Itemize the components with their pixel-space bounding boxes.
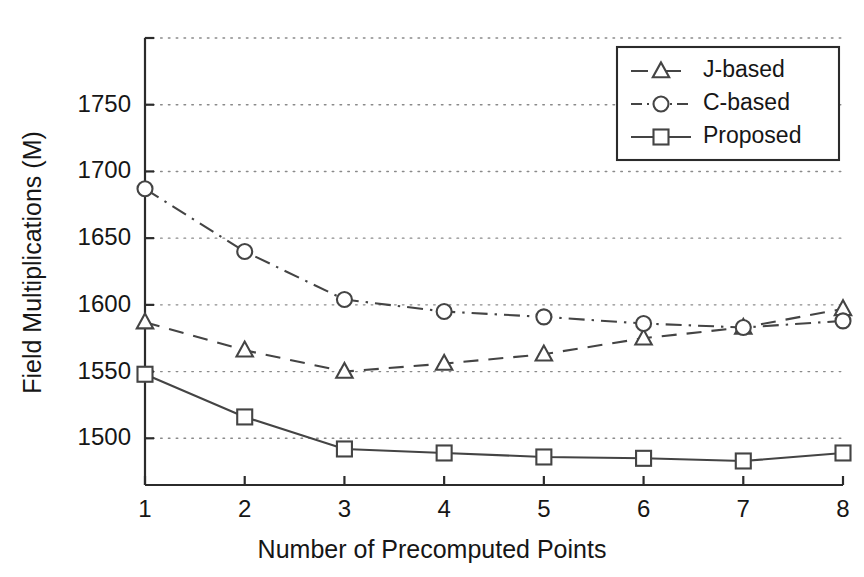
y-axis-tick-label: 1550: [41, 357, 131, 385]
y-axis-tick-label: 1650: [41, 223, 131, 251]
marker-circle: [736, 320, 751, 335]
y-axis-tick-label: 1700: [41, 156, 131, 184]
marker-square: [138, 367, 153, 382]
marker-circle: [337, 292, 352, 307]
legend-item-label: Proposed: [703, 122, 801, 149]
series-proposed: [138, 367, 851, 469]
marker-circle: [437, 304, 452, 319]
x-axis-tick-label: 1: [125, 495, 165, 523]
x-axis-tick-label: 4: [424, 495, 464, 523]
series-c-based: [138, 181, 851, 335]
line-chart-canvas: [0, 0, 864, 577]
marker-square: [736, 453, 751, 468]
marker-square: [636, 451, 651, 466]
x-axis-tick-label: 2: [225, 495, 265, 523]
x-axis-tick-label: 6: [624, 495, 664, 523]
x-axis-tick-label: 5: [524, 495, 564, 523]
marker-triangle: [237, 342, 253, 357]
y-axis-label-container: Field Multiplications (M): [18, 0, 47, 533]
marker-circle: [536, 309, 551, 324]
marker-triangle: [137, 314, 153, 329]
y-axis-tick-label: 1750: [41, 90, 131, 118]
chart-figure: Field Multiplications (M) Number of Prec…: [0, 0, 864, 577]
legend-marker-circle: [654, 97, 669, 112]
marker-square: [536, 449, 551, 464]
x-axis-tick-label: 7: [723, 495, 763, 523]
legend-marker-square: [654, 130, 669, 145]
y-axis-tick-label: 1500: [41, 423, 131, 451]
marker-square: [337, 441, 352, 456]
x-axis-label: Number of Precomputed Points: [0, 535, 864, 564]
x-axis-tick-label: 8: [823, 495, 863, 523]
x-axis-tick-label: 3: [324, 495, 364, 523]
y-axis-tick-label: 1600: [41, 290, 131, 318]
marker-circle: [636, 316, 651, 331]
series-j-based: [137, 300, 851, 378]
legend-item-label: J-based: [703, 56, 785, 83]
series-line: [145, 309, 843, 372]
legend-item-label: C-based: [703, 89, 790, 116]
marker-circle: [836, 313, 851, 328]
marker-circle: [237, 244, 252, 259]
marker-square: [836, 445, 851, 460]
marker-square: [237, 409, 252, 424]
marker-square: [437, 445, 452, 460]
marker-circle: [138, 181, 153, 196]
